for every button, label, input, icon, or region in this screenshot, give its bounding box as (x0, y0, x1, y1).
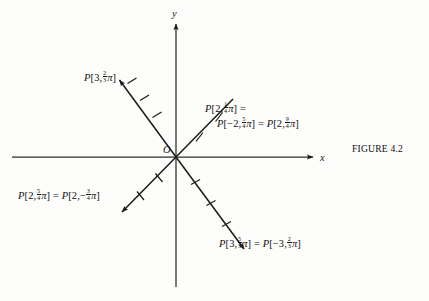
q3-b-angle-fraction: 34 (86, 188, 90, 202)
q3-b-angle-sign: − (80, 190, 86, 201)
point-label-quadrant-1: P[2,14π] = P[−2,54π] = P[2,94π] (205, 101, 299, 131)
q4-equals: = (254, 238, 260, 249)
q1-l1-equals: = (240, 103, 246, 114)
q4-b-angle-denominator: 3 (287, 243, 291, 249)
q3-b-angle-denominator: 4 (86, 195, 90, 201)
q1-l2b-angle-denominator: 4 (285, 123, 289, 129)
point-label-quadrant-3: P[2,54π] = P[2,−34π] (18, 188, 100, 203)
figure-container: y x O P[3,23π] P[2,14π] = P[−2,54π] = P[… (0, 0, 429, 301)
q1-line-2: P[−2,54π] = P[2,94π] (205, 116, 299, 131)
q3-a-angle-denominator: 4 (37, 195, 41, 201)
q2-close-bracket: ] (113, 72, 117, 83)
figure-caption: FIGURE 4.2 (352, 143, 403, 154)
q2-angle-fraction: 23 (103, 70, 107, 84)
q1-l1-angle-denominator: 4 (224, 108, 228, 114)
origin-label: O (163, 144, 171, 155)
axis-label-x: x (320, 152, 325, 163)
axis-label-y: y (172, 8, 177, 19)
q4-a-angle-fraction: 53 (238, 236, 242, 250)
point-label-quadrant-4: P[3,53π] = P[−3,23π] (219, 236, 301, 251)
q4-b-radius: −3 (273, 238, 284, 249)
ray-lower-left-ticks (137, 174, 163, 201)
q1-l1-angle-fraction: 14 (224, 101, 228, 115)
q3-a-angle-fraction: 54 (37, 188, 41, 202)
q1-l2-equals: = (258, 118, 264, 129)
q3-equals: = (53, 190, 59, 201)
q1-l2a-radius: −2 (227, 118, 238, 129)
q1-l2b-angle-fraction: 94 (285, 116, 289, 130)
q2-angle-denominator: 3 (103, 77, 107, 83)
q4-b-angle-fraction: 23 (287, 236, 291, 250)
q1-l2a-angle-denominator: 4 (242, 123, 246, 129)
q1-line-1: P[2,14π] = (205, 103, 246, 114)
q4-a-angle-denominator: 3 (238, 243, 242, 249)
q1-l2a-angle-fraction: 54 (242, 116, 246, 130)
point-label-quadrant-2: P[3,23π] (84, 70, 116, 85)
ray-lower-left (122, 157, 176, 212)
